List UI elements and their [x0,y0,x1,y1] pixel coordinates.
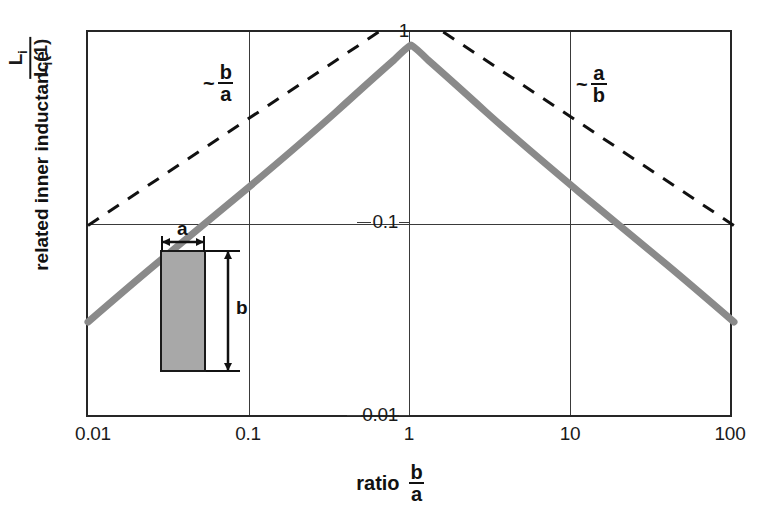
x-tick-label-10: 10 [560,423,581,445]
annotation-right-tilde: ~ [576,73,588,96]
y-title-numerator: Li [6,48,29,67]
x-tick-label-1: 1 [404,423,414,445]
y-title-denominator: Li(1) [29,37,54,79]
annotation-left-denominator: a [218,82,233,104]
inset-cross-section: a b [160,228,290,373]
x-tick-label-0.01: 0.01 [75,423,111,445]
y-tick-label-1: 1 [333,20,409,42]
annotation-right-denominator: b [591,83,607,105]
annotation-left-tilde: ~ [203,72,215,95]
annotation-b-over-a: ~ b a [203,62,235,104]
x-title-denominator: a [409,482,424,504]
annotation-a-over-b: ~ a b [576,63,608,105]
x-tick-label-100: 100 [715,423,746,445]
annotation-left-numerator: b [218,62,234,82]
x-title-prefix: ratio [356,472,399,495]
annotation-right-numerator: a [591,63,606,83]
plot-area: ~ b a ~ a b [86,30,732,417]
figure-root: related inner inductance Li Li(1) [0,0,782,509]
y-tick-label-0.1: 0.1 [322,211,409,233]
x-tick-label-0.1: 0.1 [235,423,261,445]
y-axis-title-fraction: Li Li(1) [6,36,54,80]
inset-label-b: b [236,297,248,319]
x-title-numerator: b [409,462,425,482]
y-tick-label-0.01: 0.01 [310,404,409,426]
x-axis-title: ratio b a [0,462,782,504]
inset-label-a: a [177,218,188,240]
inset-dimension-arrows [160,228,290,378]
